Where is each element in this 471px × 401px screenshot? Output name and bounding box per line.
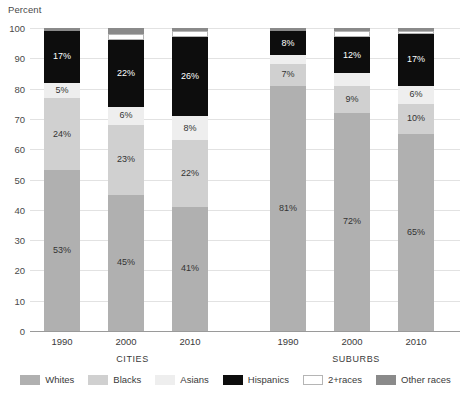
segment-value-label: 17% (53, 52, 71, 61)
legend-swatch-icon (376, 375, 396, 385)
segment-value-label: 12% (343, 51, 361, 60)
bar-segment-asians[interactable]: 8% (172, 116, 208, 140)
bar-segment-other-races[interactable] (398, 28, 434, 31)
bar-segment-blacks[interactable]: 22% (172, 140, 208, 207)
y-axis-title: Percent (8, 4, 41, 15)
bar-segment-hispanics[interactable]: 8% (270, 31, 306, 55)
bar-segment-whites[interactable]: 53% (44, 170, 80, 331)
segment-value-label: 10% (407, 114, 425, 123)
bar-segment-whites[interactable]: 81% (270, 86, 306, 331)
segment-value-label: 22% (181, 169, 199, 178)
bar-segment-hispanics[interactable]: 17% (44, 31, 80, 83)
legend-item-2-races[interactable]: 2+races (303, 374, 362, 385)
bar-segment-asians[interactable]: 6% (398, 86, 434, 104)
legend-item-blacks[interactable]: Blacks (88, 374, 141, 385)
x-axis-tick-label: 2010 (172, 336, 208, 347)
panel-title: CITIES (30, 354, 235, 364)
bar-group[interactable]: 72%9%12% (334, 28, 370, 331)
bar-segment-other-races[interactable] (44, 28, 80, 31)
bar-segment-hispanics[interactable]: 26% (172, 37, 208, 116)
plot-area: 0102030405060708090100 53%24%5%17%199045… (30, 28, 460, 331)
bar-segment-other-races[interactable] (334, 28, 370, 31)
legend-item-asians[interactable]: Asians (155, 374, 209, 385)
bar-group[interactable]: 41%22%8%26% (172, 28, 208, 331)
y-axis-tick-label: 10 (14, 295, 25, 306)
x-axis-tick-label: 2010 (398, 336, 434, 347)
y-axis-tick-label: 50 (14, 174, 25, 185)
legend-label: Asians (180, 374, 209, 385)
segment-value-label: 5% (55, 86, 68, 95)
y-axis-tick-label: 30 (14, 235, 25, 246)
bar-segment-blacks[interactable]: 10% (398, 104, 434, 134)
stacked-bar[interactable]: 53%24%5%17% (44, 28, 80, 331)
legend-swatch-icon (88, 375, 108, 385)
chart-panel-cities: 53%24%5%17%199045%23%6%22%200041%22%8%26… (30, 28, 235, 331)
segment-value-label: 8% (183, 124, 196, 133)
segment-value-label: 8% (281, 39, 294, 48)
bar-segment-asians[interactable]: 6% (108, 107, 144, 125)
bar-group[interactable]: 81%7%8% (270, 28, 306, 331)
bar-segment-other-races[interactable] (108, 28, 144, 34)
bar-segment-blacks[interactable]: 7% (270, 64, 306, 85)
chart-legend: WhitesBlacksAsiansHispanics2+racesOther … (0, 374, 471, 385)
legend-label: Whites (45, 374, 74, 385)
bar-segment-hispanics[interactable]: 22% (108, 40, 144, 107)
bar-segment-asians[interactable] (334, 73, 370, 85)
segment-value-label: 45% (117, 258, 135, 267)
segment-value-label: 65% (407, 228, 425, 237)
bar-segment-blacks[interactable]: 23% (108, 125, 144, 195)
legend-item-hispanics[interactable]: Hispanics (223, 374, 289, 385)
legend-item-other-races[interactable]: Other races (376, 374, 451, 385)
y-axis-tick-label: 60 (14, 144, 25, 155)
segment-value-label: 7% (281, 70, 294, 79)
bar-segment-hispanics[interactable]: 17% (398, 34, 434, 86)
x-axis-tick-label: 2000 (334, 336, 370, 347)
bar-segment-2-races[interactable] (334, 31, 370, 37)
y-axis-tick-label: 80 (14, 83, 25, 94)
bar-segment-blacks[interactable]: 9% (334, 86, 370, 113)
y-axis-tick-label: 0 (20, 326, 25, 337)
y-axis-tick-label: 20 (14, 265, 25, 276)
bar-segment-other-races[interactable] (270, 28, 306, 31)
legend-swatch-icon (155, 375, 175, 385)
y-axis-tick-label: 100 (9, 23, 25, 34)
stacked-bar[interactable]: 65%10%6%17% (398, 28, 434, 331)
segment-value-label: 41% (181, 264, 199, 273)
bar-segment-blacks[interactable]: 24% (44, 98, 80, 171)
stacked-bar[interactable]: 72%9%12% (334, 28, 370, 331)
chart-container: Percent 0102030405060708090100 53%24%5%1… (0, 0, 471, 401)
x-axis-tick-label: 1990 (44, 336, 80, 347)
segment-value-label: 22% (117, 69, 135, 78)
bar-segment-2-races[interactable] (172, 31, 208, 37)
legend-label: 2+races (328, 374, 362, 385)
segment-value-label: 26% (181, 72, 199, 81)
bar-segment-2-races[interactable] (398, 31, 434, 34)
bar-segment-whites[interactable]: 41% (172, 207, 208, 331)
legend-label: Blacks (113, 374, 141, 385)
bar-segment-whites[interactable]: 45% (108, 195, 144, 331)
panel-title: SUBURBS (252, 354, 460, 364)
bar-segment-whites[interactable]: 65% (398, 134, 434, 331)
bar-group[interactable]: 65%10%6%17% (398, 28, 434, 331)
bar-segment-2-races[interactable] (108, 34, 144, 40)
bar-segment-whites[interactable]: 72% (334, 113, 370, 331)
bar-segment-hispanics[interactable]: 12% (334, 37, 370, 73)
y-axis-tick-label: 40 (14, 204, 25, 215)
legend-label: Other races (401, 374, 451, 385)
bar-segment-asians[interactable]: 5% (44, 83, 80, 98)
segment-value-label: 81% (279, 204, 297, 213)
x-axis-tick-label: 1990 (270, 336, 306, 347)
legend-swatch-icon (223, 375, 243, 385)
legend-item-whites[interactable]: Whites (20, 374, 74, 385)
segment-value-label: 53% (53, 246, 71, 255)
stacked-bar[interactable]: 45%23%6%22% (108, 28, 144, 331)
legend-label: Hispanics (248, 374, 289, 385)
bar-group[interactable]: 53%24%5%17% (44, 28, 80, 331)
bar-group[interactable]: 45%23%6%22% (108, 28, 144, 331)
legend-swatch-icon (303, 375, 323, 385)
segment-value-label: 9% (345, 95, 358, 104)
stacked-bar[interactable]: 41%22%8%26% (172, 28, 208, 331)
bar-segment-asians[interactable] (270, 55, 306, 64)
bar-segment-other-races[interactable] (172, 28, 208, 31)
stacked-bar[interactable]: 81%7%8% (270, 28, 306, 331)
